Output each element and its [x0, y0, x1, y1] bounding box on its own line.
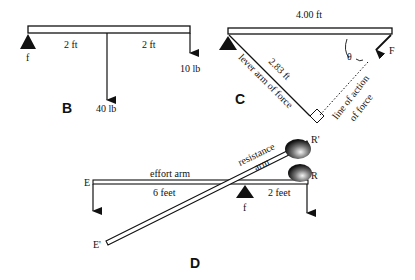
resistance-prime-label: R' [311, 134, 320, 145]
rock-icon [288, 164, 312, 182]
distance-right: 2 ft [142, 39, 156, 50]
fulcrum-label: f [26, 52, 30, 63]
beam-length-label: 4.00 ft [296, 9, 322, 20]
effort-label: E [84, 177, 90, 188]
angle-label: θ [347, 51, 352, 62]
resistance-distance-label: 2 feet [268, 187, 291, 198]
load-end-label: 10 lb [180, 63, 200, 74]
force-label: F [389, 45, 395, 56]
lever-arm-label: lever arm of force [237, 52, 296, 111]
panel-label-d: D [190, 255, 200, 271]
lever-diagrams: f 2 ft 2 ft 40 lb 10 lb B 4.00 ft F θ 2.… [0, 0, 415, 280]
horizontal-lever [93, 180, 308, 184]
angle-arc-lower [356, 59, 363, 61]
fulcrum-triangle [20, 34, 36, 49]
panel-label-c: C [235, 91, 245, 107]
fulcrum-triangle [219, 36, 237, 50]
rock-icon [285, 139, 311, 159]
fulcrum-label: f [243, 202, 247, 213]
distance-left: 2 ft [64, 39, 78, 50]
effort-prime-label: E' [93, 239, 101, 250]
effort-distance-label: 6 feet [153, 187, 176, 198]
right-angle-marker [310, 109, 324, 123]
panel-b: f 2 ft 2 ft 40 lb 10 lb B [20, 26, 200, 116]
resistance-label: R [311, 170, 318, 181]
panel-label-b: B [62, 100, 72, 116]
load-middle-label: 40 lb [96, 103, 116, 114]
beam [28, 26, 190, 33]
panel-d: f E effort arm 6 feet E' resistance arm … [84, 134, 320, 271]
fulcrum-triangle [236, 185, 254, 198]
beam [228, 28, 392, 34]
effort-arm-label: effort arm [150, 168, 190, 179]
panel-c: 4.00 ft F θ 2.83 ft lever arm of force l… [219, 9, 395, 123]
